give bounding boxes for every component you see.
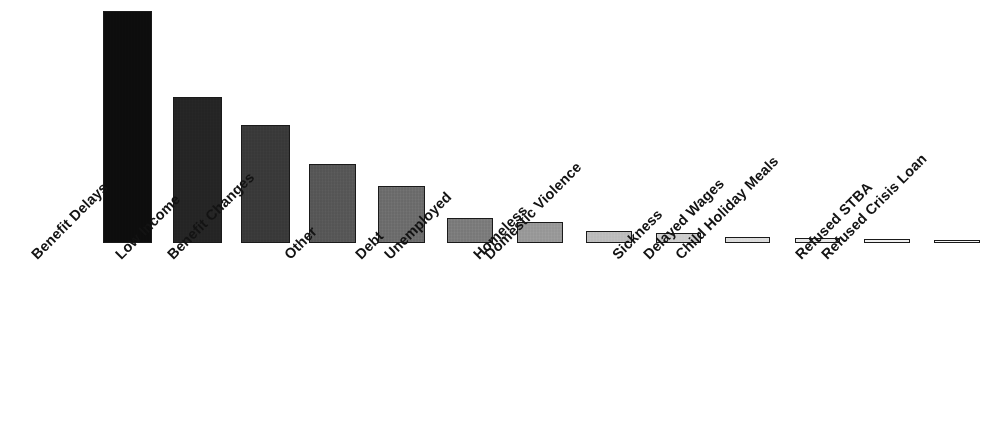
x-axis-tick-labels: Benefit DelaysLow IncomeBenefit ChangesO… [0, 243, 998, 425]
bar [103, 11, 152, 243]
bar-chart: Benefit DelaysLow IncomeBenefit ChangesO… [0, 0, 998, 425]
